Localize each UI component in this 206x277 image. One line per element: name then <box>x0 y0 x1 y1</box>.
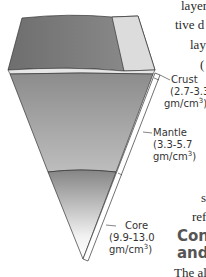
body-text-line: ref <box>192 209 206 225</box>
paragraph-start: The al <box>174 265 206 277</box>
section-heading: Cont and E <box>177 228 206 262</box>
core-label: Core (9.9-13.0 gm/cm3) <box>117 220 155 256</box>
mantle-layer <box>10 73 153 172</box>
crust-leader <box>160 75 170 80</box>
mantle-label: Mantle (3.3-5.7 gm/cm3) <box>153 127 196 163</box>
crust-label: Crust (2.7-3.3 gm/cm3) <box>171 74 206 110</box>
mantle-leader <box>143 132 152 133</box>
body-text-line: tive d <box>175 17 204 33</box>
body-text-line: s <box>201 190 206 206</box>
body-text-line: layers <box>181 0 206 14</box>
body-text-line: ( <box>200 57 204 73</box>
body-text-line: lay <box>190 37 206 53</box>
core-leader <box>106 225 116 226</box>
